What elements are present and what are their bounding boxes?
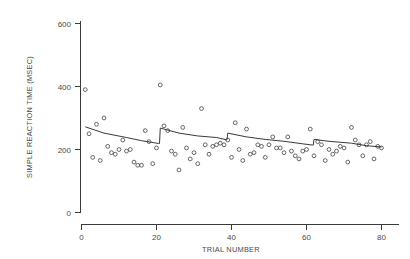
data-point: [128, 148, 132, 152]
data-point: [260, 144, 264, 148]
data-point: [305, 148, 309, 152]
data-point: [192, 151, 196, 155]
x-tick-label-60: 60: [302, 233, 311, 242]
y-tick-label-200: 200: [58, 146, 72, 155]
data-point: [248, 152, 252, 156]
data-point: [117, 148, 121, 152]
data-point: [211, 144, 215, 148]
data-point: [327, 148, 331, 152]
data-point: [275, 146, 279, 150]
data-point: [263, 155, 267, 159]
data-point: [353, 138, 357, 142]
data-point: [91, 155, 95, 159]
data-point: [143, 129, 147, 133]
data-point: [162, 124, 166, 128]
data-point: [372, 157, 376, 161]
x-tick-label-20: 20: [152, 233, 161, 242]
data-point: [188, 157, 192, 161]
data-point: [121, 138, 125, 142]
data-point: [286, 135, 290, 139]
data-point: [338, 144, 342, 148]
data-point: [132, 160, 136, 164]
data-point: [106, 144, 110, 148]
data-point: [335, 149, 339, 153]
data-point: [136, 163, 140, 167]
data-point: [241, 159, 245, 163]
data-point: [83, 88, 87, 92]
data-point: [282, 151, 286, 155]
data-point: [290, 149, 294, 153]
data-point: [297, 157, 301, 161]
chart-canvas: 600 400 200 0 SIMPLE REACTION TIME (MSEC…: [0, 0, 410, 259]
data-point: [278, 146, 282, 150]
data-point: [237, 148, 241, 152]
data-point: [151, 162, 155, 166]
data-point: [125, 149, 129, 153]
data-point: [368, 140, 372, 144]
x-axis-tick-labels: 0 20 40 60 80: [79, 233, 386, 242]
data-point: [342, 146, 346, 150]
data-point: [320, 143, 324, 147]
data-point: [98, 159, 102, 163]
data-point: [312, 154, 316, 158]
data-point: [196, 162, 200, 166]
y-axis-group: 600 400 200 0 SIMPLE REACTION TIME (MSEC…: [25, 20, 81, 218]
data-point: [361, 154, 365, 158]
x-tick-label-40: 40: [227, 233, 236, 242]
data-point: [110, 151, 114, 155]
x-tick-label-0: 0: [79, 233, 84, 242]
data-point: [140, 163, 144, 167]
y-tick-label-0: 0: [67, 209, 72, 218]
data-point: [252, 151, 256, 155]
data-point: [331, 152, 335, 156]
data-point: [271, 135, 275, 139]
reaction-time-scatter-figure: 600 400 200 0 SIMPLE REACTION TIME (MSEC…: [0, 0, 410, 259]
data-point: [308, 127, 312, 131]
data-point: [267, 143, 271, 147]
data-point: [173, 152, 177, 156]
data-point: [113, 152, 117, 156]
fitted-trend-line: [85, 127, 381, 147]
data-point: [200, 107, 204, 111]
data-point: [346, 160, 350, 164]
data-point: [155, 146, 159, 150]
data-point: [203, 143, 207, 147]
data-point: [323, 159, 327, 163]
y-axis-ticks: [75, 24, 81, 213]
data-point: [256, 143, 260, 147]
data-point: [350, 126, 354, 130]
x-tick-label-80: 80: [377, 233, 386, 242]
x-axis-group: 0 20 40 60 80 TRIAL NUMBER: [79, 225, 399, 255]
y-axis-title: SIMPLE REACTION TIME (MSEC): [25, 56, 34, 178]
data-point: [230, 155, 234, 159]
data-point: [293, 154, 297, 158]
data-point: [95, 122, 99, 126]
data-point: [102, 116, 106, 120]
data-point: [215, 143, 219, 147]
data-point: [185, 146, 189, 150]
data-point: [222, 143, 226, 147]
data-point: [245, 127, 249, 131]
y-tick-label-400: 400: [58, 83, 72, 92]
data-point: [207, 152, 211, 156]
x-axis-ticks: [82, 225, 382, 231]
data-point: [301, 149, 305, 153]
y-axis-tick-labels: 600 400 200 0: [58, 20, 72, 218]
scatter-points-layer: [83, 83, 383, 172]
data-point: [177, 168, 181, 172]
data-point: [181, 126, 185, 130]
data-point: [170, 149, 174, 153]
data-point: [87, 132, 91, 136]
y-tick-label-600: 600: [58, 20, 72, 29]
data-point: [158, 83, 162, 87]
data-point: [218, 141, 222, 145]
data-point: [233, 121, 237, 125]
x-axis-title: TRIAL NUMBER: [202, 245, 260, 254]
